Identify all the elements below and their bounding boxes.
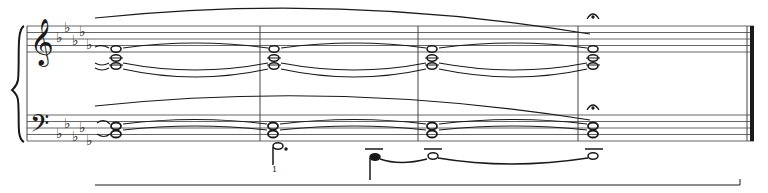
brace [12,26,24,142]
svg-text:♭: ♭ [64,115,71,131]
svg-text:♭: ♭ [79,119,86,135]
bass-low-voice [273,143,603,180]
music-score: 𝄞 𝄢 ♭♭♭♭♭ ♭♭♭♭♭ 1 [0,0,768,193]
treble-key-signature: ♭♭♭♭♭ [56,19,93,52]
treble-chords [109,46,600,69]
bass-chords [111,123,598,138]
bass-clef-icon: 𝄢 [30,109,49,144]
ottava-bracket [95,179,740,185]
svg-text:♭: ♭ [56,125,63,141]
final-barline [750,26,754,141]
svg-text:♭: ♭ [72,32,79,48]
barlines [27,26,747,141]
svg-text:♭: ♭ [86,36,93,52]
svg-text:♭: ♭ [86,132,93,148]
treble-clef-icon: 𝄞 [30,18,54,67]
ties-and-slurs [95,8,590,136]
svg-text:♭: ♭ [72,128,79,144]
svg-text:♭: ♭ [64,19,71,35]
svg-text:♭: ♭ [56,29,63,45]
svg-text:♭: ♭ [79,23,86,39]
treble-staff [27,26,754,52]
fingering: 1 [272,165,277,174]
bass-staff [27,115,754,141]
bass-key-signature: ♭♭♭♭♭ [56,115,93,148]
